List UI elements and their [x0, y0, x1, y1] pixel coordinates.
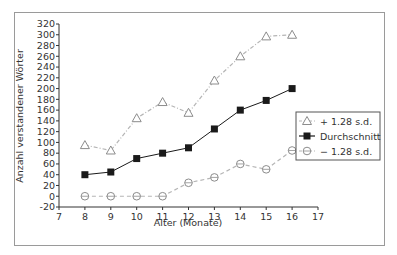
- y-tick-label: 100: [37, 137, 55, 148]
- triangle-marker: [262, 32, 271, 40]
- square-marker: [133, 155, 140, 162]
- triangle-marker: [288, 30, 297, 38]
- line-chart: -200204060801001201401601802002202402602…: [0, 0, 397, 255]
- y-tick-label: 320: [37, 18, 55, 29]
- triangle-marker: [132, 114, 141, 122]
- series-line: [85, 150, 292, 196]
- square-marker: [289, 85, 296, 92]
- legend-label: − 1.28 s.d.: [320, 146, 372, 157]
- square-marker: [159, 150, 166, 157]
- y-tick-label: 300: [37, 29, 55, 40]
- y-tick-label: 20: [43, 180, 55, 191]
- x-tick-label: 8: [82, 211, 88, 222]
- legend-label: Durchschnitt: [320, 131, 381, 142]
- x-tick-label: 16: [286, 211, 298, 222]
- x-tick-label: 7: [56, 211, 62, 222]
- triangle-marker: [80, 141, 89, 149]
- square-marker: [237, 107, 244, 114]
- y-tick-label: 140: [37, 115, 55, 126]
- y-tick-label: 280: [37, 40, 55, 51]
- x-tick-label: 15: [260, 211, 272, 222]
- y-tick-label: 60: [43, 158, 55, 169]
- legend-label: + 1.28 s.d.: [320, 116, 372, 127]
- y-tick-label: 180: [37, 94, 55, 105]
- y-tick-label: 40: [43, 169, 55, 180]
- square-marker: [263, 97, 270, 104]
- legend: + 1.28 s.d.Durchschnitt− 1.28 s.d.: [296, 112, 381, 160]
- square-marker: [304, 133, 311, 140]
- x-tick-label: 14: [234, 211, 246, 222]
- triangle-marker: [236, 52, 245, 60]
- y-tick-label: 260: [37, 51, 55, 62]
- axes: -200204060801001201401601802002202402602…: [37, 18, 324, 222]
- square-marker: [81, 171, 88, 178]
- y-axis-title: Anzahl verstandener Wörter: [14, 49, 25, 183]
- series-1: [81, 85, 295, 178]
- triangle-marker: [158, 98, 167, 106]
- x-axis-title: Alter (Monate): [154, 217, 222, 228]
- square-marker: [185, 144, 192, 151]
- y-tick-label: 240: [37, 61, 55, 72]
- y-tick-label: 220: [37, 72, 55, 83]
- square-marker: [211, 125, 218, 132]
- x-tick-label: 9: [108, 211, 114, 222]
- y-tick-label: -20: [39, 201, 55, 212]
- y-tick-label: 120: [37, 126, 55, 137]
- square-marker: [107, 169, 114, 176]
- x-tick-label: 17: [312, 211, 324, 222]
- series-line: [85, 35, 292, 151]
- series-0: [80, 30, 296, 154]
- y-tick-label: 160: [37, 104, 55, 115]
- series-layer: [80, 30, 296, 200]
- triangle-marker: [184, 108, 193, 116]
- series-line: [85, 89, 292, 175]
- y-tick-label: 80: [43, 147, 55, 158]
- x-tick-label: 10: [131, 211, 143, 222]
- y-tick-label: 200: [37, 83, 55, 94]
- y-tick-label: 0: [49, 191, 55, 202]
